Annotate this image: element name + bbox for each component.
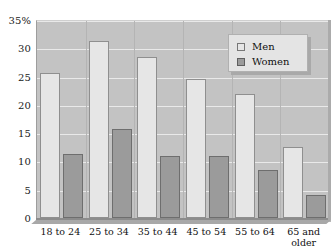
- bar-men-65-and-older: [283, 147, 303, 218]
- bar-women-35-to-44: [160, 156, 180, 218]
- light-square-swatch-icon: [237, 43, 245, 51]
- y-axis-tick-label: 30: [18, 43, 31, 54]
- x-axis-tick-label: 18 to 24: [36, 226, 85, 237]
- legend-item-label: Women: [252, 56, 289, 67]
- x-axis-tick-label: 65 and older: [279, 226, 328, 248]
- y-axis-tick-label: 0: [25, 213, 31, 224]
- chart-legend: Men Women: [228, 34, 308, 72]
- y-axis: 05101520253035%: [0, 0, 34, 252]
- chart-right-wall-3d: [328, 20, 331, 220]
- bar-men-55-to-64: [235, 94, 255, 218]
- bar-women-55-to-64: [258, 170, 278, 218]
- category-separator: [183, 21, 184, 218]
- x-axis-tick-label: 55 to 64: [231, 226, 280, 237]
- y-axis-tick-label: 15: [18, 128, 31, 139]
- bar-women-45-to-54: [209, 156, 229, 218]
- chart-floor-3d: [31, 220, 331, 224]
- y-axis-tick-label: 10: [18, 156, 31, 167]
- bar-men-45-to-54: [186, 79, 206, 218]
- y-axis-tick-label: 20: [18, 99, 31, 110]
- bar-men-25-to-34: [89, 41, 109, 218]
- y-axis-tick-label: 35%: [8, 15, 31, 26]
- bar-women-18-to-24: [63, 154, 83, 218]
- x-axis-tick-label: 45 to 54: [182, 226, 231, 237]
- y-axis-tick-label: 5: [25, 184, 31, 195]
- bar-men-35-to-44: [137, 57, 157, 218]
- category-separator: [86, 21, 87, 218]
- x-axis-tick-label: 25 to 34: [85, 226, 134, 237]
- bar-men-18-to-24: [40, 73, 60, 218]
- bar-chart: 05101520253035% 18 to 2425 to 3435 to 44…: [0, 0, 334, 252]
- legend-item-men[interactable]: Men: [237, 39, 307, 54]
- bar-women-65-and-older: [306, 195, 326, 218]
- category-separator: [134, 21, 135, 218]
- legend-item-women[interactable]: Women: [237, 54, 307, 69]
- legend-item-label: Men: [252, 41, 275, 52]
- bar-women-25-to-34: [112, 129, 132, 218]
- x-axis-tick-label: 35 to 44: [133, 226, 182, 237]
- x-axis: 18 to 2425 to 3435 to 4445 to 5455 to 64…: [36, 226, 328, 252]
- y-axis-tick-label: 25: [18, 71, 31, 82]
- dark-square-swatch-icon: [237, 58, 245, 66]
